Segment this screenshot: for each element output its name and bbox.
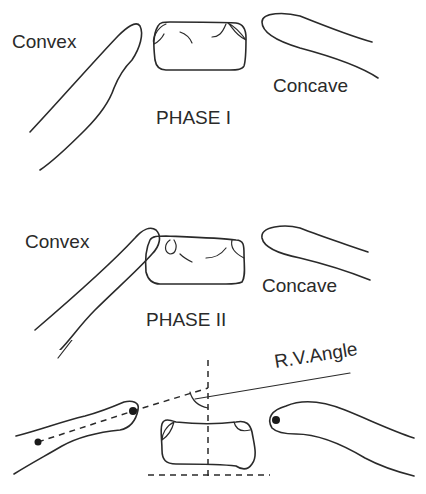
vertebra-body <box>146 236 245 284</box>
vertebra-mark-1 <box>180 32 192 43</box>
vertebra-facet-left <box>162 422 174 440</box>
angle-pointer-line <box>195 373 350 399</box>
rib-head-point-right <box>272 416 280 424</box>
rib-head-point <box>129 407 137 415</box>
phase-2-convex-label: Convex <box>25 232 89 251</box>
vertebra-mark-2 <box>206 248 226 258</box>
convex-rib-tail <box>58 340 72 358</box>
rib-axis-line <box>38 388 208 442</box>
rv-angle-drawing <box>0 340 426 494</box>
phase-1-title: PHASE I <box>156 108 231 127</box>
angle-arc <box>190 392 208 408</box>
rib-vertebra-diagram: Convex Concave PHASE I Convex Concave PH… <box>0 0 426 494</box>
phase-1-drawing <box>0 0 426 180</box>
concave-rib-shape <box>262 14 378 78</box>
phase-2-concave-label: Concave <box>262 276 337 295</box>
phase-2-title: PHASE II <box>146 310 226 329</box>
rib-distal-point <box>35 439 42 446</box>
phase-1-convex-label: Convex <box>12 32 76 51</box>
vertebra-facet-right <box>228 23 246 40</box>
vertebra-facet-left <box>166 240 177 254</box>
vertebra-body <box>154 22 246 70</box>
vertebra-mark-2 <box>212 24 226 37</box>
vertebra-mark-1 <box>180 254 192 262</box>
right-rib-shape <box>270 402 414 476</box>
vertebra-facet-left <box>154 24 167 44</box>
phase-1-concave-label: Concave <box>273 76 348 95</box>
concave-rib-shape <box>262 226 370 280</box>
left-rib-shape <box>14 401 138 474</box>
